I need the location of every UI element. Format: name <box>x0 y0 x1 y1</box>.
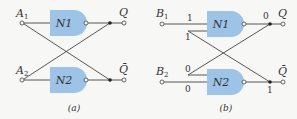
panel-a: N1 N2 A1 A2 Q Q̄ (a) <box>15 6 128 113</box>
output-q-label: Q <box>119 6 128 19</box>
output-q-bar-label: Q̄ <box>119 63 128 76</box>
nand-latch-diagram: N1 N2 A1 A2 Q Q̄ (a) N1 <box>0 0 297 119</box>
terminal-q-bar <box>122 78 126 82</box>
terminal-b1 <box>160 22 164 26</box>
value-n2-out: 1 <box>267 85 273 95</box>
gate-n2-label: N2 <box>55 74 73 87</box>
caption-b: (b) <box>220 103 233 113</box>
junction-dot <box>268 22 272 26</box>
caption-a: (a) <box>68 103 81 113</box>
terminal-a2 <box>20 78 24 82</box>
terminal-q <box>122 21 126 25</box>
input-a2-label: A2 <box>15 64 28 78</box>
value-n1-in-bottom: 1 <box>185 32 191 42</box>
terminal-q-bar <box>281 80 285 84</box>
terminal-b2 <box>160 80 164 84</box>
value-n2-in-bottom: 0 <box>185 84 191 94</box>
value-n1-in-top: 1 <box>187 13 193 23</box>
input-b1-label: B1 <box>155 7 169 21</box>
output-q-bar-label: Q̄ <box>278 65 287 78</box>
gate-n1-label: N1 <box>212 18 230 31</box>
inverter-bubble <box>84 78 88 82</box>
inverter-bubble <box>84 21 88 25</box>
junction-dot <box>108 78 112 82</box>
gate-n2-label: N2 <box>212 76 230 89</box>
value-n2-in-top: 0 <box>185 64 191 74</box>
input-a1-label: A1 <box>15 7 28 21</box>
input-b2-label: B2 <box>155 65 169 79</box>
junction-dot <box>268 80 272 84</box>
gate-n1-label: N1 <box>55 17 73 30</box>
output-q-label: Q <box>278 7 287 20</box>
inverter-bubble <box>242 80 246 84</box>
terminal-a1 <box>20 21 24 25</box>
junction-dot <box>108 21 112 25</box>
value-n1-out: 0 <box>263 11 269 21</box>
terminal-q <box>281 22 285 26</box>
inverter-bubble <box>242 22 246 26</box>
panel-b: N1 N2 B1 B2 Q Q̄ 1 1 0 0 0 1 (b) <box>155 7 287 113</box>
